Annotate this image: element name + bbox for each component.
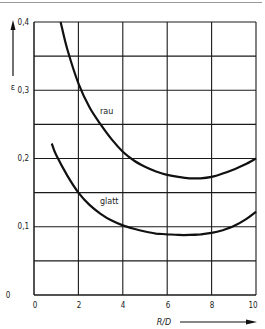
x-tick-0: 0 xyxy=(33,301,38,310)
chart: 0,4 0,3 0,2 0,1 0 0 2 4 6 8 10 ε R/D rau… xyxy=(0,0,265,329)
x-tick-6: 6 xyxy=(166,301,171,310)
x-axis-arrow-icon xyxy=(180,320,257,325)
curves xyxy=(52,22,256,235)
curve-glatt xyxy=(52,144,256,236)
y-tick-0.1: 0,1 xyxy=(18,222,29,231)
curve-label-glatt: glatt xyxy=(100,197,118,206)
y-axis-label: ε xyxy=(11,83,15,92)
x-axis-label: R/D xyxy=(157,318,171,327)
y-axis-arrow-icon xyxy=(11,20,16,76)
y-tick-0.2: 0,2 xyxy=(18,154,29,163)
y-tick-0.3: 0,3 xyxy=(18,86,29,95)
x-tick-8: 8 xyxy=(210,301,215,310)
curve-label-rau: rau xyxy=(100,107,113,116)
y-tick-0: 0 xyxy=(6,291,11,300)
grid xyxy=(34,22,256,295)
y-tick-0.4: 0,4 xyxy=(18,18,30,27)
x-tick-2: 2 xyxy=(77,301,82,310)
x-tick-10: 10 xyxy=(248,301,258,310)
x-tick-4: 4 xyxy=(121,301,126,310)
curve-rau xyxy=(61,22,256,178)
